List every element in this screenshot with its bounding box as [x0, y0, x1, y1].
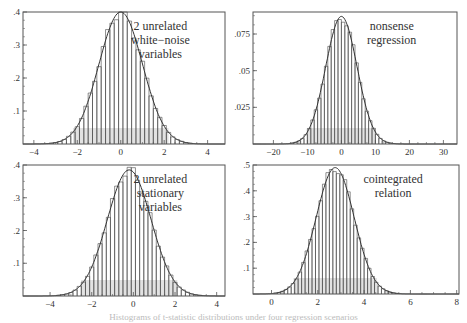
- histogram-bar: [329, 169, 332, 294]
- y-tick-label: .2: [13, 226, 20, 236]
- x-tick-label: 30: [439, 147, 449, 157]
- y-tick-label: .3: [13, 40, 20, 50]
- y-tick-label: .4: [243, 186, 250, 196]
- y-axis: .025.05.075: [234, 16, 257, 135]
- panel-annotation: 2 unrelatedstationaryvariables: [134, 172, 188, 214]
- y-tick-label: .5: [243, 160, 250, 170]
- histogram-bar: [131, 168, 135, 296]
- x-tick-label: 0: [339, 147, 344, 157]
- y-tick-label: .1: [13, 106, 20, 116]
- panel-cointegrated: 02468.1.2.3.4.5cointegratedrelation: [243, 160, 459, 307]
- x-tick-label: 2: [173, 299, 178, 309]
- y-tick-label: .4: [13, 7, 20, 17]
- annotation-line: white−noise: [131, 33, 190, 47]
- x-tick-label: −10: [300, 147, 315, 157]
- plot-frame: [23, 12, 225, 144]
- x-tick-label: −2: [87, 299, 97, 309]
- x-tick-label: 0: [269, 297, 274, 307]
- histogram-bar: [123, 176, 127, 296]
- histogram-bar: [345, 26, 348, 144]
- histogram-bar: [348, 32, 351, 144]
- y-tick-label: .3: [243, 212, 250, 222]
- histogram-bar: [119, 182, 123, 296]
- y-tick-label: .1: [13, 258, 20, 268]
- y-tick-label: .3: [13, 193, 20, 203]
- panel-annotation: 2 unrelatedwhite−noisevariables: [131, 19, 190, 61]
- x-tick-label: 2: [162, 147, 167, 157]
- histogram-bar: [343, 180, 346, 294]
- x-tick-label: −20: [266, 147, 281, 157]
- panel-stationary: −4−2024.1.2.3.42 unrelatedstationaryvari…: [13, 160, 225, 309]
- x-tick-label: 6: [408, 297, 413, 307]
- histogram-bar: [322, 184, 325, 294]
- x-tick-label: 0: [118, 147, 123, 157]
- annotation-line: nonsense: [370, 19, 414, 33]
- x-tick-label: 4: [205, 147, 210, 157]
- annotation-line: variables: [139, 200, 183, 214]
- y-axis: .1.2.3.4: [13, 7, 27, 136]
- y-tick-label: .4: [13, 160, 20, 170]
- annotation-line: 2 unrelated: [134, 172, 188, 186]
- histogram-bar: [336, 174, 339, 294]
- y-axis: .1.2.3.4: [13, 160, 27, 288]
- histogram-bar: [119, 12, 123, 144]
- annotation-line: relation: [375, 186, 412, 200]
- y-tick-label: .05: [239, 66, 251, 76]
- histogram-bar: [326, 173, 329, 294]
- y-tick-label: .075: [234, 29, 250, 39]
- y-tick-label: .025: [234, 102, 250, 112]
- annotation-line: variables: [139, 47, 183, 61]
- annotation-line: 2 unrelated: [134, 19, 188, 33]
- x-tick-label: 20: [405, 147, 415, 157]
- panel-annotation: nonsenseregression: [367, 19, 416, 47]
- panel-nonsense-regression: −20−100102030.025.05.075nonsenseregressi…: [234, 12, 457, 157]
- histogram-bar: [338, 20, 341, 144]
- density-curve: [253, 168, 459, 294]
- histogram-bar: [341, 22, 344, 144]
- histogram-bar: [123, 12, 127, 144]
- annotation-line: stationary: [137, 186, 184, 200]
- panel-annotation: cointegratedrelation: [363, 172, 422, 200]
- histogram-bar: [340, 175, 343, 294]
- histogram-bar: [331, 30, 334, 144]
- histogram-bar: [110, 23, 114, 144]
- histogram-bar: [115, 186, 119, 296]
- x-tick-label: 2: [316, 297, 321, 307]
- x-tick-label: 8: [454, 297, 459, 307]
- x-tick-label: 10: [371, 147, 381, 157]
- histogram-bar: [335, 21, 338, 144]
- plot-frame: [23, 165, 225, 296]
- y-tick-label: .2: [13, 73, 20, 83]
- figure-caption: Histograms of t-statistic distributions …: [0, 312, 467, 322]
- x-tick-label: 4: [214, 299, 219, 309]
- annotation-line: cointegrated: [363, 172, 422, 186]
- density-curve: [23, 170, 225, 296]
- y-axis: .1.2.3.4.5: [243, 160, 257, 288]
- histogram-bar: [106, 30, 110, 144]
- annotation-line: regression: [367, 33, 416, 47]
- histogram-bar: [114, 20, 118, 144]
- histogram-bar: [333, 172, 336, 294]
- density-curve: [23, 12, 225, 144]
- histogram-bar: [127, 167, 131, 296]
- x-tick-label: 0: [131, 299, 136, 309]
- x-tick-label: −4: [29, 147, 39, 157]
- y-tick-label: .2: [243, 237, 250, 247]
- shaded-band: [81, 280, 177, 296]
- panel-white-noise: −4−2024.1.2.3.42 unrelatedwhite−noisevar…: [13, 7, 225, 157]
- plot-frame: [253, 165, 459, 294]
- x-tick-label: 4: [362, 297, 367, 307]
- x-tick-label: −2: [73, 147, 83, 157]
- x-tick-label: −4: [45, 299, 55, 309]
- y-tick-label: .1: [243, 263, 250, 273]
